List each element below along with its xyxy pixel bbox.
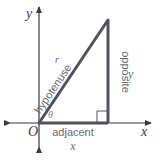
right-angle-marker bbox=[97, 111, 108, 123]
hypotenuse-side bbox=[39, 20, 108, 123]
origin-label: O bbox=[28, 124, 38, 139]
adjacent-label: adjacent bbox=[52, 126, 94, 138]
hypotenuse-label: hypotenuse bbox=[32, 62, 74, 116]
adjacent-variable: x bbox=[69, 139, 76, 153]
y-axis-label: y bbox=[24, 6, 33, 21]
x-axis-label: x bbox=[140, 124, 148, 139]
opposite-variable: y bbox=[127, 67, 134, 81]
angle-theta-label: θ bbox=[48, 109, 53, 120]
right-triangle-diagram: y x O θ hypotenuse r opposite y adjacent… bbox=[0, 0, 162, 161]
hypotenuse-variable: r bbox=[55, 54, 59, 65]
